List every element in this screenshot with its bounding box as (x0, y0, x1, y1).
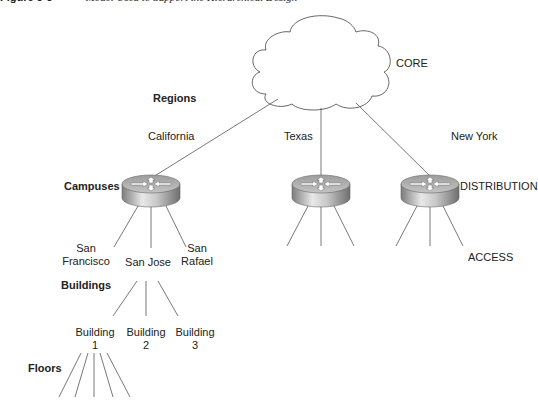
buildings-label: Buildings (61, 279, 111, 292)
router-icon-texas (292, 175, 350, 207)
router-icon-new-york (401, 175, 459, 207)
building-1: Building 1 (75, 326, 114, 352)
campus-san-jose: San Jose (125, 256, 171, 269)
region-california: California (148, 130, 194, 143)
floors-label: Floors (28, 362, 62, 375)
campus-san-rafael: San Rafael (181, 242, 213, 268)
core-cloud-icon (252, 16, 390, 110)
building-2: Building 2 (126, 326, 165, 352)
core-label: CORE (396, 57, 428, 70)
campuses-label: Campuses (64, 180, 120, 193)
regions-label: Regions (153, 92, 196, 105)
router-icon-california (122, 175, 180, 207)
access-label: ACCESS (468, 251, 513, 264)
access-links (59, 206, 463, 397)
campus-san-francisco: San Francisco (62, 242, 110, 268)
building-3: Building 3 (175, 326, 214, 352)
region-new-york: New York (451, 130, 497, 143)
region-texas: Texas (284, 130, 313, 143)
distribution-label: DISTRIBUTION (460, 180, 538, 193)
